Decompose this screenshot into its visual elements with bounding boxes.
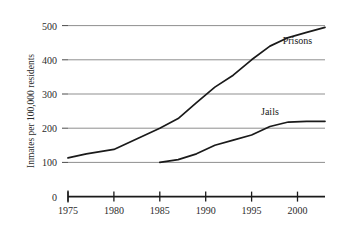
chart-figure: 500 400 300 200 100 0 1975 1980 1985 199…	[0, 0, 346, 244]
x-tick-label-1995: 1995	[242, 205, 262, 216]
series-line-jails	[160, 121, 325, 162]
series-label-jails: Jails	[261, 106, 279, 117]
x-tick-label-2000: 2000	[288, 205, 308, 216]
series-label-prisons: Prisons	[283, 35, 313, 46]
y-tick-label-300: 300	[42, 89, 57, 100]
y-axis	[62, 26, 68, 203]
series-line-prisons	[68, 27, 325, 158]
x-axis	[68, 192, 325, 202]
y-tick-label-100: 100	[42, 157, 57, 168]
y-tick-label-400: 400	[42, 55, 57, 66]
y-tick-label-500: 500	[42, 21, 57, 32]
y-tick-label-0: 0	[52, 192, 57, 203]
x-tick-label-1990: 1990	[196, 205, 216, 216]
y-axis-title: Inmates per 100,000 residents	[26, 54, 36, 168]
x-tick-label-1985: 1985	[150, 205, 170, 216]
line-chart: 500 400 300 200 100 0 1975 1980 1985 199…	[0, 0, 346, 244]
x-tick-label-1975: 1975	[58, 205, 78, 216]
y-tick-label-200: 200	[42, 123, 57, 134]
x-tick-label-1980: 1980	[104, 205, 124, 216]
